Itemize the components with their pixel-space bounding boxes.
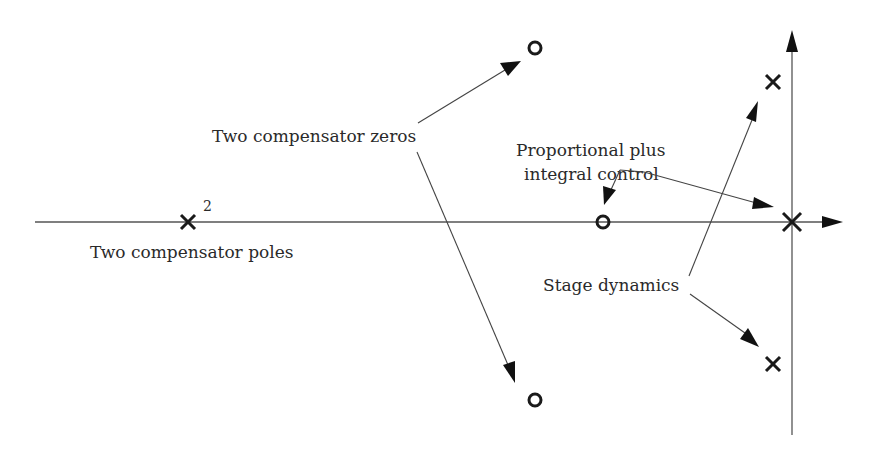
real-axis-arrow-icon bbox=[822, 216, 843, 228]
leader-stage-upper bbox=[689, 101, 758, 276]
real-axis bbox=[35, 216, 843, 228]
stage-pole-lower bbox=[766, 357, 780, 371]
zero-o-icon-upper bbox=[529, 42, 541, 54]
label-compensator-poles: Two compensator poles bbox=[90, 242, 294, 262]
arrowhead-icon bbox=[752, 197, 774, 209]
leader-stage-lower bbox=[690, 294, 759, 347]
root-locus-diagram: 2 Two compensator poles Two compensator … bbox=[0, 0, 876, 450]
arrowhead-icon bbox=[503, 361, 515, 383]
stage-pole-upper bbox=[766, 75, 780, 89]
label-pi-line1: Proportional plus bbox=[516, 140, 665, 160]
arrowhead-icon bbox=[500, 61, 521, 76]
label-pi-line2: integral control bbox=[524, 164, 659, 184]
arrowhead-icon bbox=[746, 101, 758, 122]
imag-axis-arrow-icon bbox=[786, 30, 798, 52]
pole-multiplicity: 2 bbox=[203, 198, 212, 214]
zero-o-icon-lower bbox=[529, 394, 541, 406]
label-compensator-zeros: Two compensator zeros bbox=[212, 126, 416, 146]
leader-zeros-upper bbox=[418, 61, 521, 123]
arrowhead-icon bbox=[603, 186, 616, 205]
imaginary-axis bbox=[786, 30, 798, 435]
label-stage-dynamics: Stage dynamics bbox=[543, 275, 679, 295]
compensator-double-pole: 2 bbox=[181, 198, 212, 229]
leader-zeros-lower bbox=[417, 152, 515, 383]
